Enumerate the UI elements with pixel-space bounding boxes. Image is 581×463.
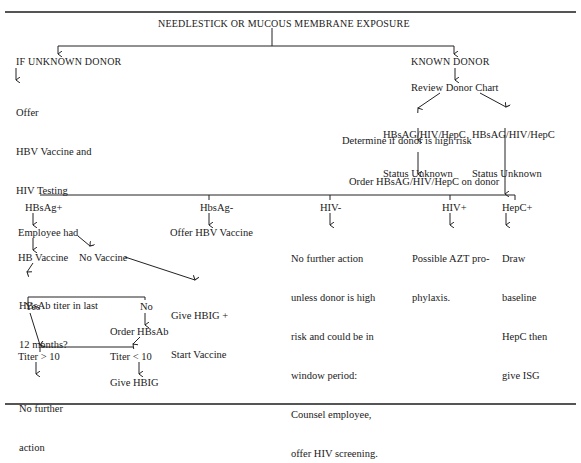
unknown-donor-action-line: Offer [16,106,91,119]
hiv-positive-action: Possible AZT pro- phylaxis. [412,226,489,317]
no-further-line: action [19,441,63,454]
no-further-action: No further action [19,376,63,463]
employee-had: Employee had [18,226,78,239]
hepc-positive-line: Draw [502,252,547,265]
status-line: HBsAG/HIV/HepC [472,128,555,141]
hepc-positive-line: HepC then [502,330,547,343]
determine-high-risk: Determine if donor is high risk [342,134,472,147]
hiv-negative-line: offer HIV screening. [291,447,378,460]
hepc-positive-line: baseline [502,291,547,304]
give-hbig-line: Give HBIG + [171,309,228,322]
hbsag-negative-label: HbsAg- [200,201,233,214]
hepc-positive-action: Draw baseline HepC then give ISG [502,226,547,395]
hiv-negative-line: window period: [291,369,378,382]
no-further-line: No further [19,402,63,415]
hiv-positive-line: Possible AZT pro- [412,252,489,265]
diagram-title: NEEDLESTICK OR MUCOUS MEMBRANE EXPOSURE [158,17,410,30]
hepc-positive-line: give ISG [502,369,547,382]
hepc-positive-label: HepC+ [502,201,532,214]
order-donor-tests: Order HBsAG/HIV/HepC on donor [349,175,499,188]
give-hbig-start-vaccine: Give HBIG + Start Vaccine [171,283,228,374]
unknown-donor-action-line: HIV Testing [16,184,91,197]
hbsag-positive-label: HBsAg+ [25,201,62,214]
hb-vaccine: HB Vaccine [18,251,68,264]
titer-less-than-10: Titer < 10 [110,350,152,363]
yes-label: Yes [25,300,40,313]
titer-greater-than-10: Titer > 10 [18,350,60,363]
hiv-negative-action: No further action unless donor is high r… [291,226,378,463]
give-hbig-line: Start Vaccine [171,348,228,361]
unknown-donor-heading: IF UNKNOWN DONOR [16,55,121,68]
hiv-positive-line: phylaxis. [412,291,489,304]
review-donor-chart: Review Donor Chart [411,81,498,94]
no-label: No [140,300,153,313]
offer-hbv-vaccine: Offer HBV Vaccine [170,226,253,239]
give-hbig: Give HBIG [110,376,159,389]
no-vaccine: No Vaccine [79,251,128,264]
unknown-donor-action-line: HBV Vaccine and [16,145,91,158]
known-donor-heading: KNOWN DONOR [411,55,490,68]
order-hbsab: Order HBsAb [110,325,169,338]
hiv-negative-line: risk and could be in [291,330,378,343]
hiv-negative-line: Counsel employee, [291,408,378,421]
hiv-negative-line: unless donor is high [291,291,378,304]
hiv-negative-line: No further action [291,252,378,265]
hiv-negative-label: HIV- [320,201,341,214]
unknown-donor-action: Offer HBV Vaccine and HIV Testing [16,80,91,210]
hiv-positive-label: HIV+ [442,201,467,214]
